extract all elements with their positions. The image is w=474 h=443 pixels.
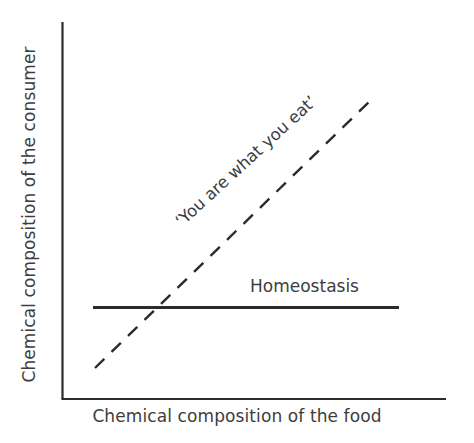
you-are-what-you-eat-line: [95, 99, 372, 368]
plot-area: [0, 0, 474, 443]
x-axis-label: Chemical composition of the food: [0, 406, 474, 426]
homeostasis-series-label: Homeostasis: [250, 276, 359, 296]
y-axis-label: Chemical composition of the consumer: [14, 0, 44, 443]
figure-canvas: Homeostasis ‘You are what you eat’ Chemi…: [0, 0, 474, 443]
